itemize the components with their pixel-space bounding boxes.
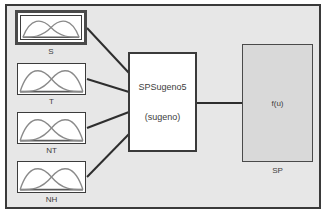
input-label-nt: NT — [17, 146, 86, 155]
fis-diagram: S T NT NH — [0, 0, 328, 215]
input-node-s[interactable] — [15, 10, 87, 45]
output-node-sp[interactable]: f(u) — [242, 44, 313, 162]
fis-name: SPSugeno5 — [130, 82, 195, 92]
output-label-sp: SP — [242, 166, 313, 175]
input-node-nt[interactable] — [17, 112, 86, 144]
membership-functions-icon — [20, 15, 82, 40]
input-node-t[interactable] — [17, 63, 86, 95]
input-label-s: S — [15, 47, 87, 56]
fis-type: (sugeno) — [130, 112, 195, 122]
membership-functions-icon — [18, 113, 85, 143]
membership-functions-icon — [18, 64, 85, 94]
fis-rules-node[interactable]: SPSugeno5 (sugeno) — [128, 52, 197, 152]
membership-functions-icon — [18, 162, 85, 192]
input-label-nh: NH — [17, 195, 86, 204]
output-function-text: f(u) — [272, 99, 284, 108]
input-label-t: T — [17, 97, 86, 106]
input-node-nh[interactable] — [17, 161, 86, 193]
